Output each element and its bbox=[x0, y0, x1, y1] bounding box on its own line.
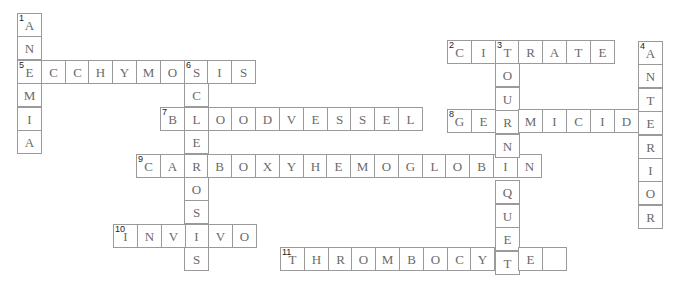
cell-letter: O bbox=[240, 229, 249, 245]
crossword-cell[interactable]: O bbox=[423, 247, 448, 271]
crossword-cell[interactable]: D bbox=[614, 109, 639, 133]
crossword-cell[interactable]: C bbox=[447, 247, 472, 271]
crossword-cell[interactable]: S bbox=[231, 60, 256, 84]
crossword-cell[interactable]: E bbox=[638, 111, 663, 135]
crossword-cell[interactable]: R bbox=[328, 247, 353, 271]
crossword-cell[interactable]: A bbox=[542, 40, 567, 64]
crossword-cell[interactable]: S bbox=[184, 200, 209, 224]
cell-letter: O bbox=[431, 252, 440, 268]
crossword-cell[interactable]: B bbox=[399, 247, 424, 271]
crossword-cell[interactable]: M bbox=[350, 154, 375, 178]
crossword-cell[interactable]: O bbox=[231, 154, 256, 178]
crossword-cell[interactable]: V bbox=[161, 224, 186, 248]
cell-letter: I bbox=[503, 159, 507, 175]
crossword-cell[interactable]: I10 bbox=[113, 224, 138, 248]
crossword-cell[interactable]: E bbox=[590, 40, 615, 64]
crossword-cell[interactable]: T bbox=[566, 40, 591, 64]
crossword-cell[interactable]: B bbox=[469, 154, 494, 178]
crossword-cell[interactable]: O bbox=[231, 107, 256, 131]
crossword-cell[interactable]: C bbox=[184, 83, 209, 107]
crossword-cell[interactable]: U bbox=[495, 204, 520, 228]
crossword-cell[interactable]: I bbox=[17, 107, 42, 131]
crossword-cell[interactable]: I bbox=[638, 158, 663, 182]
crossword-cell[interactable]: A4 bbox=[638, 41, 663, 65]
cell-letter: O bbox=[239, 159, 248, 175]
crossword-cell[interactable]: O bbox=[638, 181, 663, 205]
crossword-cell[interactable]: O bbox=[445, 154, 470, 178]
crossword-cell[interactable]: M bbox=[518, 109, 543, 133]
crossword-cell[interactable]: B7 bbox=[160, 107, 185, 131]
crossword-cell[interactable]: C9 bbox=[136, 154, 161, 178]
crossword-cell[interactable]: N bbox=[137, 224, 162, 248]
crossword-cell[interactable]: M bbox=[17, 83, 42, 107]
crossword-cell[interactable]: Q bbox=[495, 180, 520, 204]
crossword-cell[interactable]: N bbox=[638, 64, 663, 88]
crossword-cell[interactable]: O bbox=[208, 107, 233, 131]
crossword-cell[interactable]: I bbox=[184, 224, 209, 248]
crossword-cell[interactable]: E bbox=[303, 107, 328, 131]
crossword-cell[interactable]: I bbox=[207, 60, 232, 84]
cell-letter: E bbox=[335, 159, 343, 175]
crossword-cell[interactable]: V bbox=[208, 224, 233, 248]
crossword-cell[interactable]: S6 bbox=[184, 60, 209, 84]
crossword-cell[interactable]: E bbox=[326, 154, 351, 178]
crossword-cell[interactable]: H bbox=[303, 154, 328, 178]
crossword-cell[interactable]: I bbox=[471, 40, 496, 64]
crossword-cell[interactable]: E bbox=[374, 107, 399, 131]
crossword-cell[interactable]: C bbox=[65, 60, 90, 84]
crossword-cell[interactable]: O bbox=[160, 60, 185, 84]
crossword-cell[interactable]: R bbox=[495, 110, 520, 134]
crossword-cell[interactable] bbox=[542, 247, 567, 271]
crossword-cell[interactable]: C bbox=[566, 109, 591, 133]
crossword-cell[interactable]: E bbox=[495, 227, 520, 251]
crossword-cell[interactable]: X bbox=[255, 154, 280, 178]
crossword-cell[interactable]: R bbox=[184, 154, 209, 178]
crossword-cell[interactable]: S bbox=[350, 107, 375, 131]
crossword-cell[interactable]: L bbox=[398, 107, 423, 131]
crossword-cell[interactable]: D bbox=[255, 107, 280, 131]
crossword-cell[interactable]: O bbox=[232, 224, 257, 248]
crossword-cell[interactable]: C bbox=[41, 60, 66, 84]
crossword-cell[interactable]: B bbox=[207, 154, 232, 178]
crossword-cell[interactable]: I bbox=[590, 109, 615, 133]
crossword-cell[interactable]: H bbox=[88, 60, 113, 84]
crossword-cell[interactable]: T11 bbox=[280, 247, 305, 271]
crossword-cell[interactable]: T bbox=[495, 251, 520, 275]
crossword-cell[interactable]: S bbox=[327, 107, 352, 131]
crossword-cell[interactable]: N bbox=[17, 36, 42, 60]
crossword-cell[interactable]: O bbox=[495, 63, 520, 87]
crossword-cell[interactable]: N bbox=[495, 134, 520, 158]
crossword-cell[interactable]: Y bbox=[112, 60, 137, 84]
crossword-cell[interactable]: M bbox=[375, 247, 400, 271]
crossword-cell[interactable]: T bbox=[638, 88, 663, 112]
crossword-cell[interactable]: O bbox=[374, 154, 399, 178]
crossword-cell[interactable]: I bbox=[542, 109, 567, 133]
crossword-cell[interactable]: L bbox=[184, 107, 209, 131]
crossword-cell[interactable]: Y bbox=[470, 247, 495, 271]
crossword-cell[interactable]: N bbox=[517, 154, 542, 178]
crossword-cell[interactable]: V bbox=[279, 107, 304, 131]
crossword-cell[interactable]: M bbox=[136, 60, 161, 84]
cell-letter: O bbox=[359, 252, 368, 268]
crossword-cell[interactable]: S bbox=[184, 247, 209, 271]
crossword-cell[interactable]: E5 bbox=[17, 60, 42, 84]
crossword-cell[interactable]: G bbox=[398, 154, 423, 178]
crossword-cell[interactable]: H bbox=[304, 247, 329, 271]
crossword-cell[interactable]: O bbox=[184, 177, 209, 201]
crossword-cell[interactable]: R bbox=[638, 135, 663, 159]
crossword-cell[interactable]: Y bbox=[279, 154, 304, 178]
crossword-cell[interactable]: R bbox=[638, 205, 663, 229]
crossword-cell[interactable]: E bbox=[518, 247, 543, 271]
crossword-cell[interactable]: A1 bbox=[17, 13, 42, 37]
crossword-cell[interactable]: L bbox=[422, 154, 447, 178]
crossword-cell[interactable]: E bbox=[184, 130, 209, 154]
crossword-cell[interactable]: U bbox=[495, 87, 520, 111]
crossword-cell[interactable]: A bbox=[17, 130, 42, 154]
crossword-cell[interactable]: A bbox=[160, 154, 185, 178]
crossword-cell[interactable]: O bbox=[351, 247, 376, 271]
crossword-cell[interactable]: E bbox=[471, 109, 496, 133]
crossword-cell[interactable]: C2 bbox=[447, 40, 472, 64]
crossword-cell[interactable]: T3 bbox=[495, 40, 520, 64]
crossword-cell[interactable]: G8 bbox=[447, 109, 472, 133]
crossword-cell[interactable]: R bbox=[518, 40, 543, 64]
